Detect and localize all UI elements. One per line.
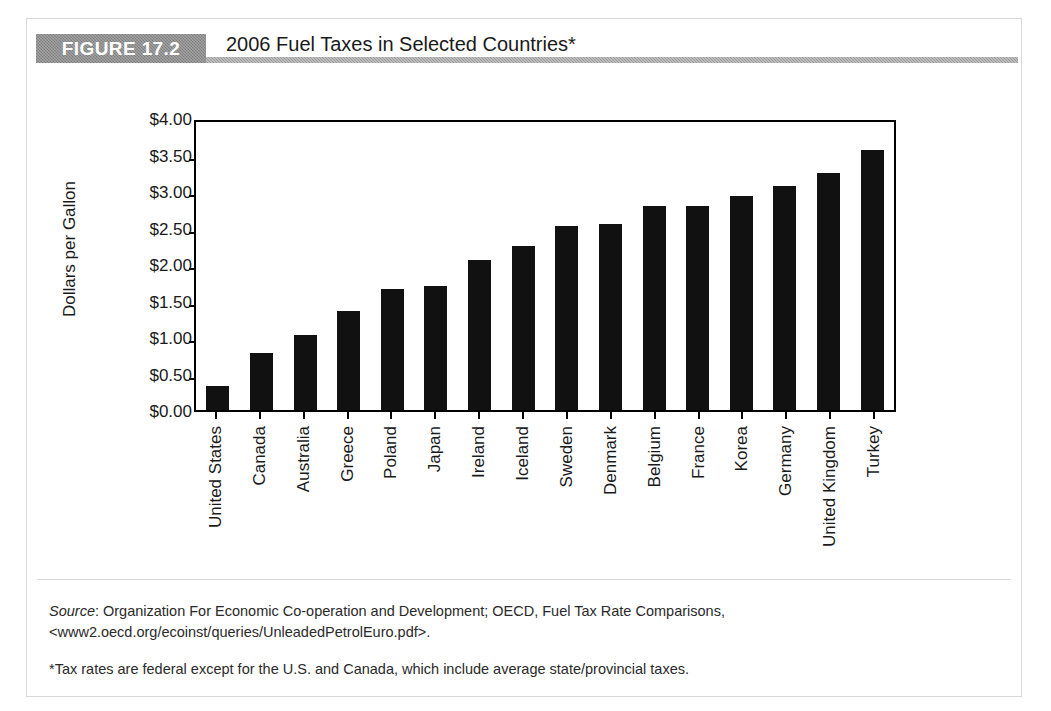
x-axis-tick-labels: United StatesCanadaAustraliaGreecePoland…: [194, 422, 896, 562]
x-axis-tick-label: United States: [206, 426, 226, 528]
x-axis-tick-mark: [785, 412, 787, 419]
x-axis-label-cell: United Kingdom: [819, 422, 842, 562]
y-axis-tick-mark: [189, 268, 196, 270]
y-axis-tick-label: $1.50: [149, 293, 192, 313]
x-axis-tick-label: Greece: [338, 426, 358, 482]
y-axis-tick-mark: [189, 232, 196, 234]
bar: [206, 386, 229, 410]
x-axis-tick-mark: [610, 412, 612, 419]
y-axis-tick-label: $3.00: [149, 183, 192, 203]
x-axis-tick-label: Japan: [425, 426, 445, 472]
bar: [817, 173, 840, 410]
figure-container: FIGURE 17.2 2006 Fuel Taxes in Selected …: [26, 18, 1022, 697]
x-axis-tick-label: Sweden: [557, 426, 577, 487]
x-axis-label-cell: Korea: [731, 422, 754, 562]
y-axis-tick-label: $2.00: [149, 256, 192, 276]
y-axis-tick-label: $4.00: [149, 110, 192, 130]
source-note: Source: Organization For Economic Co-ope…: [49, 601, 999, 643]
x-axis-tick-label: Germany: [776, 426, 796, 496]
plot-area: [194, 120, 896, 412]
x-axis-tick-mark: [215, 412, 217, 419]
figure-header: FIGURE 17.2 2006 Fuel Taxes in Selected …: [27, 19, 1021, 73]
x-axis-tick-label: Iceland: [513, 426, 533, 481]
x-axis-label-cell: Sweden: [555, 422, 578, 562]
x-axis-tick-mark: [698, 412, 700, 419]
bar: [643, 206, 666, 410]
figure-notes: Source: Organization For Economic Co-ope…: [27, 601, 1021, 696]
x-axis-tick-mark: [303, 412, 305, 419]
bar-series: [196, 122, 894, 410]
bar: [730, 196, 753, 410]
bar: [773, 186, 796, 410]
x-axis-label-cell: Denmark: [599, 422, 622, 562]
x-axis-tick-mark: [829, 412, 831, 419]
x-axis-tick-label: Poland: [381, 426, 401, 479]
chart-area: Dollars per Gallon $4.00$3.50$3.00$2.50$…: [27, 73, 1023, 553]
x-axis-tick-mark: [259, 412, 261, 419]
y-axis-tick-mark: [189, 341, 196, 343]
x-axis-tick-mark: [741, 412, 743, 419]
x-axis-tick-label: Australia: [294, 426, 314, 492]
x-axis-tick-mark: [390, 412, 392, 419]
x-axis-tick-mark: [873, 412, 875, 419]
bar: [250, 353, 273, 410]
x-axis-tick-label: Canada: [250, 426, 270, 486]
y-axis-tick-label: $0.50: [149, 366, 192, 386]
figure-badge-label: FIGURE 17.2: [36, 34, 206, 63]
x-axis-tick-mark: [566, 412, 568, 419]
x-axis-tick-mark: [522, 412, 524, 419]
x-axis-label-cell: Australia: [292, 422, 315, 562]
footnote-note: *Tax rates are federal except for the U.…: [49, 659, 999, 680]
x-axis-tick-label: Ireland: [469, 426, 489, 478]
y-axis-tick-mark: [189, 195, 196, 197]
x-axis-tick-mark: [434, 412, 436, 419]
y-axis-tick-label: $2.50: [149, 220, 192, 240]
bar: [599, 224, 622, 410]
bar: [294, 335, 317, 410]
x-axis-label-cell: Canada: [248, 422, 271, 562]
x-axis-tick-label: France: [689, 426, 709, 479]
bar: [861, 150, 884, 410]
x-axis-tick-marks: [194, 412, 896, 420]
x-axis-label-cell: Iceland: [512, 422, 535, 562]
bar: [555, 226, 578, 410]
x-axis-label-cell: Poland: [380, 422, 403, 562]
y-axis-tick-label: $1.00: [149, 329, 192, 349]
x-axis-tick-mark: [654, 412, 656, 419]
x-axis-tick-label: Belgium: [645, 426, 665, 487]
x-axis-label-cell: United States: [204, 422, 227, 562]
y-axis-tick-mark: [189, 378, 196, 380]
y-axis-tick-mark: [189, 159, 196, 161]
x-axis-tick-label: Denmark: [601, 426, 621, 495]
x-axis-label-cell: Turkey: [863, 422, 886, 562]
x-axis-label-cell: Japan: [424, 422, 447, 562]
y-axis-tick-label: $3.50: [149, 147, 192, 167]
x-axis-tick-label: United Kingdom: [820, 426, 840, 547]
x-axis-label-cell: Germany: [775, 422, 798, 562]
source-label: Source: [49, 603, 95, 619]
header-rule: [206, 57, 1018, 63]
x-axis-label-cell: Greece: [336, 422, 359, 562]
notes-divider: [37, 579, 1011, 580]
y-axis-tick-mark: [189, 305, 196, 307]
y-axis-tick-labels: $4.00$3.50$3.00$2.50$2.00$1.50$1.00$0.50…: [112, 73, 192, 493]
x-axis-tick-mark: [478, 412, 480, 419]
y-axis-tick-label: $0.00: [149, 402, 192, 422]
bar: [337, 311, 360, 410]
x-axis-tick-mark: [347, 412, 349, 419]
bar: [468, 260, 491, 410]
x-axis-label-cell: France: [687, 422, 710, 562]
y-axis-title: Dollars per Gallon: [60, 149, 80, 349]
bar: [424, 286, 447, 410]
bar: [512, 246, 535, 410]
bar: [381, 289, 404, 410]
x-axis-tick-label: Turkey: [864, 426, 884, 477]
source-text: : Organization For Economic Co-operation…: [49, 603, 725, 640]
x-axis-label-cell: Belgium: [643, 422, 666, 562]
x-axis-label-cell: Ireland: [468, 422, 491, 562]
figure-title: 2006 Fuel Taxes in Selected Countries*: [226, 33, 576, 56]
x-axis-tick-label: Korea: [732, 426, 752, 471]
figure-badge: FIGURE 17.2: [36, 34, 206, 63]
bar: [686, 206, 709, 410]
